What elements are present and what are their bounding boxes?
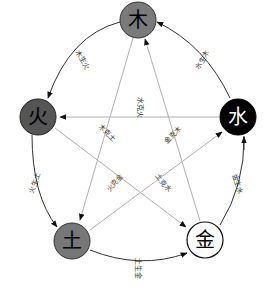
label-water-wood: 水生木: [193, 48, 211, 71]
node-fire: 火: [20, 99, 56, 135]
node-wood: 木: [120, 2, 156, 38]
edge-earth-controls-water: [90, 132, 222, 230]
wuxing-diagram: 木生火 火生土 土生金 金生水 水生木 水克火 木克土 金克木 火克金 土克水 …: [0, 0, 276, 294]
edge-water-generates-wood: [157, 22, 230, 98]
earth-char: 土: [62, 229, 82, 253]
label-fire-metal: 火克金: [104, 172, 124, 194]
fire-char: 火: [28, 105, 48, 129]
label-metal-water: 金生水: [230, 172, 246, 195]
node-metal: 金: [187, 222, 223, 258]
label-fire-earth: 火生土: [27, 171, 43, 194]
label-metal-wood: 金克木: [162, 124, 183, 145]
wood-char: 木: [128, 8, 148, 32]
node-water: 水: [220, 99, 256, 135]
label-water-fire: 水克火: [136, 97, 145, 118]
label-earth-metal: 土生金: [134, 258, 143, 279]
node-earth: 土: [54, 223, 90, 259]
metal-char: 金: [195, 228, 215, 252]
label-wood-fire: 木生火: [73, 48, 91, 71]
water-char: 水: [228, 105, 248, 129]
